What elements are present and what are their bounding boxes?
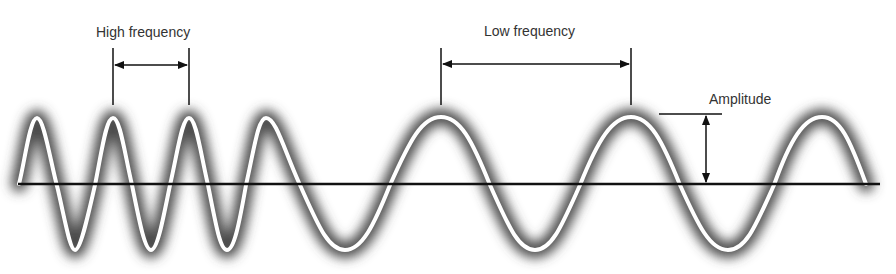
high-frequency-label: High frequency [96,24,190,40]
wave-svg [0,0,896,274]
low-frequency-label: Low frequency [484,23,575,39]
amplitude-label: Amplitude [709,91,771,107]
